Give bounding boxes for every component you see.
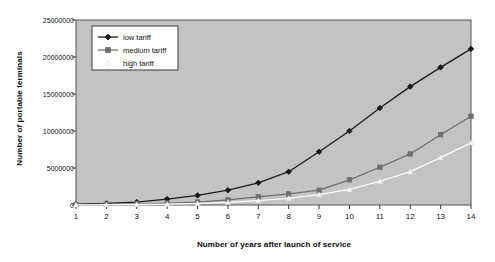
data-point-marker <box>408 152 412 156</box>
legend-label: low tariff <box>123 33 152 42</box>
data-point-marker <box>469 114 473 118</box>
data-point-marker <box>438 133 442 137</box>
chart-container: Number of portable terminals Number of y… <box>0 0 495 262</box>
plot-area: low tariffmedium tariffhigh tariff <box>0 0 495 262</box>
data-point-marker <box>347 178 351 182</box>
legend-label: high tariff <box>123 59 155 68</box>
legend-label: medium tariff <box>123 46 167 55</box>
data-point-marker <box>378 165 382 169</box>
data-point-marker <box>106 48 111 53</box>
